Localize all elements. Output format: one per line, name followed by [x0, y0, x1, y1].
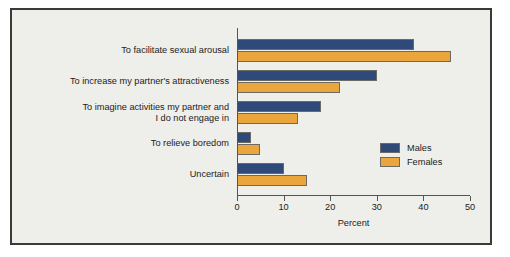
- x-tick-label-50: 50: [465, 202, 475, 212]
- x-tick-50: [470, 196, 471, 201]
- x-tick-label-30: 30: [372, 202, 382, 212]
- x-tick-30: [377, 196, 378, 201]
- bar-females-3: [237, 144, 260, 155]
- bar-females-1: [237, 82, 340, 93]
- bar-males-2: [237, 101, 321, 112]
- y-axis-line: [237, 28, 238, 195]
- x-tick-40: [423, 196, 424, 201]
- category-label-2: To imagine activities my partner and I d…: [82, 102, 229, 124]
- bar-females-4: [237, 175, 307, 186]
- x-tick-label-40: 40: [418, 202, 428, 212]
- category-label-4: Uncertain: [190, 169, 229, 180]
- chart-figure-frame: To facilitate sexual arousal To increase…: [10, 8, 492, 245]
- category-label-3: To relieve boredom: [151, 138, 229, 149]
- category-label-1: To increase my partner's attractiveness: [70, 76, 229, 87]
- category-label-0: To facilitate sexual arousal: [121, 45, 229, 56]
- x-tick-label-0: 0: [234, 202, 239, 212]
- bar-males-0: [237, 39, 414, 50]
- x-axis-line: [237, 195, 470, 196]
- bar-males-4: [237, 163, 284, 174]
- x-axis-title: Percent: [237, 218, 470, 228]
- chart-legend: Males Females: [380, 143, 442, 171]
- legend-swatch-males-icon: [380, 143, 400, 153]
- bar-males-3: [237, 132, 251, 143]
- legend-label-females: Females: [407, 157, 442, 167]
- chart-plot-area: To facilitate sexual arousal To increase…: [12, 10, 490, 243]
- bar-males-1: [237, 70, 377, 81]
- bar-females-2: [237, 113, 298, 124]
- legend-label-males: Males: [407, 143, 432, 153]
- legend-item-females: Females: [380, 157, 442, 167]
- x-tick-10: [284, 196, 285, 201]
- x-tick-20: [330, 196, 331, 201]
- x-tick-label-10: 10: [278, 202, 288, 212]
- x-tick-0: [237, 196, 238, 201]
- x-tick-label-20: 20: [325, 202, 335, 212]
- legend-swatch-females-icon: [380, 157, 400, 167]
- bar-females-0: [237, 51, 451, 62]
- legend-item-males: Males: [380, 143, 442, 153]
